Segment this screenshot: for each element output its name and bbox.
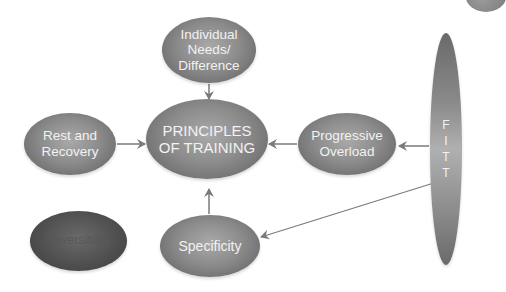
fitt-letter: F bbox=[442, 117, 449, 133]
node-label-line: Individual bbox=[180, 27, 237, 43]
node-label-line: Difference bbox=[178, 58, 239, 74]
node-label-line: OF TRAINING bbox=[159, 139, 255, 156]
node-rest-and-recovery: Rest and Recovery bbox=[24, 113, 116, 175]
node-reversibility: Reversibility bbox=[30, 211, 127, 271]
node-label-line: Reversibility bbox=[46, 234, 111, 248]
node-individual-needs: Individual Needs/ Difference bbox=[162, 17, 256, 83]
node-label-line: PRINCIPLES bbox=[162, 122, 251, 139]
fitt-letter: T bbox=[442, 149, 449, 165]
node-specificity: Specificity bbox=[160, 215, 260, 277]
node-fitt: F I T T bbox=[430, 33, 462, 265]
node-progressive-overload: Progressive Overload bbox=[298, 113, 396, 175]
arrow-fitt-to-specificity bbox=[261, 182, 437, 237]
node-label-line: Rest and bbox=[43, 128, 97, 144]
node-label-line: Recovery bbox=[41, 144, 98, 160]
fitt-letter: I bbox=[444, 133, 447, 149]
node-principles-of-training: PRINCIPLES OF TRAINING bbox=[146, 99, 268, 179]
fitt-letter: T bbox=[442, 165, 449, 181]
node-label-line: Overload bbox=[320, 144, 375, 160]
node-label-line: Specificity bbox=[178, 238, 241, 254]
node-label-line: Progressive bbox=[311, 128, 382, 144]
node-label-line: Needs/ bbox=[188, 42, 231, 58]
